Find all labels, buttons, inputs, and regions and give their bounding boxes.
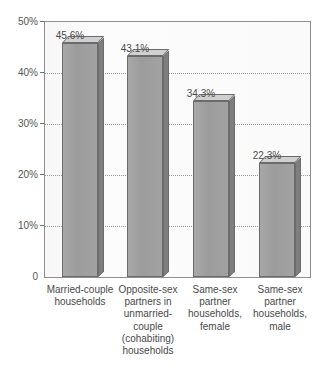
y-tick-mark-10 xyxy=(40,225,44,226)
y-tick-mark-30 xyxy=(40,123,44,124)
y-axis-label-10: 10% xyxy=(4,221,38,231)
bar-front-face-1 xyxy=(62,43,98,277)
bar-side-face-1 xyxy=(98,38,104,277)
y-axis-label-30: 30% xyxy=(4,119,38,129)
y-axis-label-50: 50% xyxy=(4,17,38,27)
bar-chart: 45.6% 43.1% 34.3% 22.3% 50% 40% 30% 20% … xyxy=(0,0,324,369)
bar-side-face-4 xyxy=(295,158,301,277)
y-axis-label-40: 40% xyxy=(4,68,38,78)
bar-side-face-3 xyxy=(229,96,235,277)
x-axis-category-label-1: Married-couple households xyxy=(46,284,114,308)
y-tick-mark-50 xyxy=(40,21,44,22)
data-label-bar-4: 22.3% xyxy=(242,150,292,161)
bar-front-face-3 xyxy=(193,101,229,277)
y-axis-label-0: 0 xyxy=(4,272,38,282)
x-axis-category-label-3: Same-sex partner households, female xyxy=(182,284,248,333)
bar-married-couple-households xyxy=(62,43,98,277)
x-axis-category-label-4: Same-sex partner households, male xyxy=(247,284,313,333)
data-label-bar-3: 34.3% xyxy=(176,88,226,99)
bar-side-face-2 xyxy=(163,51,169,277)
y-axis-label-20: 20% xyxy=(4,170,38,180)
bar-opposite-sex-partners xyxy=(127,56,163,277)
y-tick-mark-20 xyxy=(40,174,44,175)
bar-same-sex-female xyxy=(193,101,229,277)
data-label-bar-2: 43.1% xyxy=(110,43,160,54)
bar-front-face-2 xyxy=(127,56,163,277)
y-tick-mark-40 xyxy=(40,72,44,73)
bar-front-face-4 xyxy=(259,163,295,277)
bar-same-sex-male xyxy=(259,163,295,277)
x-axis-category-label-2: Opposite-sex partners in unmarried-coupl… xyxy=(113,284,183,357)
data-label-bar-1: 45.6% xyxy=(45,30,95,41)
